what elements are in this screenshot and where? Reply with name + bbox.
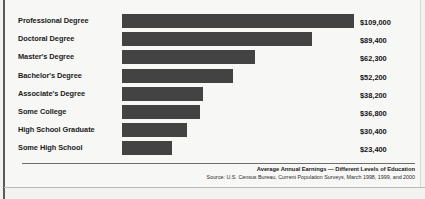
category-label: Some College bbox=[18, 103, 118, 121]
bar-track bbox=[122, 69, 354, 83]
bar bbox=[122, 123, 187, 137]
category-label: Associate's Degree bbox=[18, 85, 118, 103]
category-label: Master's Degree bbox=[18, 48, 118, 66]
chart-row: Doctoral Degree$89,400 bbox=[0, 30, 425, 48]
chart-row: Professional Degree$109,000 bbox=[0, 12, 425, 30]
chart-row: Bachelor's Degree$52,200 bbox=[0, 67, 425, 85]
chart-title: Average Annual Earnings — Different Leve… bbox=[257, 166, 415, 172]
value-label: $30,400 bbox=[360, 125, 418, 139]
bar bbox=[122, 14, 354, 28]
chart-row: Master's Degree$62,300 bbox=[0, 48, 425, 66]
value-label: $62,300 bbox=[360, 52, 418, 66]
bar bbox=[122, 32, 312, 46]
bar bbox=[122, 105, 200, 119]
bar bbox=[122, 69, 233, 83]
value-label: $109,000 bbox=[360, 16, 418, 30]
bar bbox=[122, 50, 255, 64]
value-label: $36,800 bbox=[360, 107, 418, 121]
bar-track bbox=[122, 141, 354, 155]
bar-track bbox=[122, 32, 354, 46]
bar-track bbox=[122, 105, 354, 119]
chart-row: High School Graduate$30,400 bbox=[0, 121, 425, 139]
chart-row: Some College$36,800 bbox=[0, 103, 425, 121]
chart-page: Professional Degree$109,000Doctoral Degr… bbox=[0, 0, 425, 199]
bar-track bbox=[122, 123, 354, 137]
bar bbox=[122, 141, 172, 155]
bar-track bbox=[122, 14, 354, 28]
value-label: $23,400 bbox=[360, 143, 418, 157]
bar-track bbox=[122, 50, 354, 64]
category-label: High School Graduate bbox=[18, 121, 118, 139]
category-label: Professional Degree bbox=[18, 12, 118, 30]
value-label: $89,400 bbox=[360, 34, 418, 48]
value-label: $52,200 bbox=[360, 71, 418, 85]
bar bbox=[122, 87, 203, 101]
category-label: Doctoral Degree bbox=[18, 30, 118, 48]
caption-divider bbox=[22, 163, 415, 164]
bar-track bbox=[122, 87, 354, 101]
category-label: Bachelor's Degree bbox=[18, 67, 118, 85]
chart-row: Some High School$23,400 bbox=[0, 139, 425, 157]
value-label: $38,200 bbox=[360, 89, 418, 103]
chart-source: Source: U.S. Census Bureau, Current Popu… bbox=[207, 174, 415, 180]
chart-row: Associate's Degree$38,200 bbox=[0, 85, 425, 103]
category-label: Some High School bbox=[18, 139, 118, 157]
